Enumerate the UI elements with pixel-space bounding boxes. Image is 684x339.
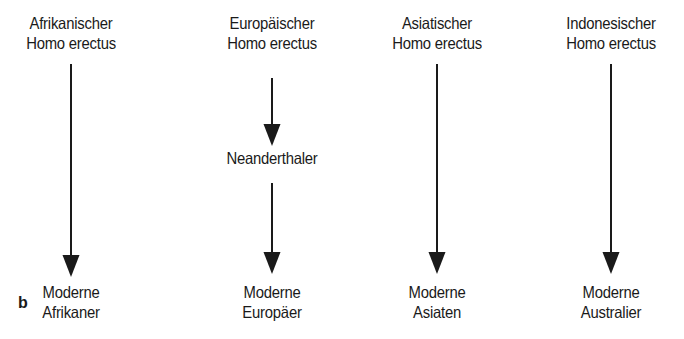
panel-label-b: b	[18, 294, 28, 312]
node-modern-africans-line1: Moderne	[42, 283, 99, 301]
node-european-homo-erectus: Europäischer Homo erectus	[187, 14, 358, 53]
node-asian-homo-erectus-line1: Asiatischer	[402, 14, 472, 32]
node-modern-australians-line1: Moderne	[582, 283, 639, 301]
multiregional-evolution-diagram: Afrikanischer Homo erectus Moderne Afrik…	[0, 0, 684, 339]
node-indonesian-homo-erectus-line1: Indonesischer	[566, 14, 656, 32]
node-neanderthal-line1: Neanderthaler	[226, 149, 317, 167]
lineage-column-african: Afrikanischer Homo erectus Moderne Afrik…	[0, 0, 166, 339]
node-european-homo-erectus-line1: Europäischer	[230, 14, 315, 32]
node-modern-europeans-line1: Moderne	[243, 283, 300, 301]
node-modern-australians-line2: Australier	[581, 303, 641, 321]
lineage-column-indonesian: Indonesischer Homo erectus Moderne Austr…	[516, 0, 684, 339]
node-modern-africans-line2: Afrikaner	[42, 303, 99, 321]
node-african-homo-erectus-line1: Afrikanischer	[30, 14, 113, 32]
node-modern-asians-line1: Moderne	[408, 283, 465, 301]
node-african-homo-erectus: Afrikanischer Homo erectus	[0, 14, 157, 53]
lineage-column-european: Europäischer Homo erectus Neanderthaler …	[177, 0, 367, 339]
node-asian-homo-erectus: Asiatischer Homo erectus	[352, 14, 523, 53]
node-african-homo-erectus-line2: Homo erectus	[26, 34, 116, 52]
lineage-column-asian: Asiatischer Homo erectus Moderne Asiaten	[342, 0, 532, 339]
node-modern-europeans: Moderne Europäer	[187, 283, 358, 322]
node-modern-asians: Moderne Asiaten	[352, 283, 523, 322]
node-modern-europeans-line2: Europäer	[242, 303, 301, 321]
node-modern-australians: Moderne Australier	[526, 283, 684, 322]
node-modern-asians-line2: Asiaten	[413, 303, 461, 321]
node-indonesian-homo-erectus-line2: Homo erectus	[566, 34, 656, 52]
node-asian-homo-erectus-line2: Homo erectus	[392, 34, 482, 52]
node-indonesian-homo-erectus: Indonesischer Homo erectus	[526, 14, 684, 53]
node-neanderthal: Neanderthaler	[187, 149, 358, 169]
node-european-homo-erectus-line2: Homo erectus	[227, 34, 317, 52]
